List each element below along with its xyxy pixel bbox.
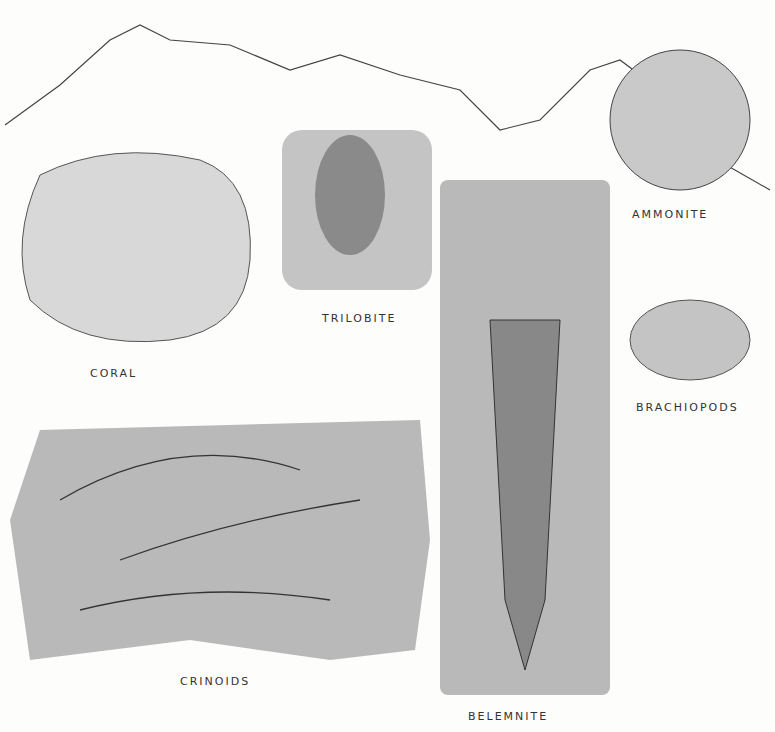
trilobite-label: TRILOBITE <box>322 312 396 325</box>
coral-fossil <box>22 153 250 342</box>
fossil-illustration <box>0 0 775 732</box>
brachiopods-label: BRACHIOPODS <box>636 401 739 414</box>
ammonite-fossil <box>610 50 750 190</box>
trilobite-fossil <box>315 135 385 255</box>
brachiopods-fossil <box>630 300 750 380</box>
ammonite-label: AMMONITE <box>632 208 708 221</box>
coral-label: CORAL <box>90 367 137 380</box>
crinoids-label: CRINOIDS <box>180 675 250 688</box>
belemnite-label: BELEMNITE <box>468 710 548 723</box>
